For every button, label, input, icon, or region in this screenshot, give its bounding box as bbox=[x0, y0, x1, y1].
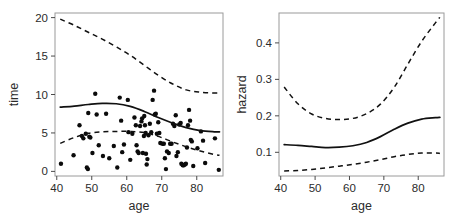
x-tick-label: 60 bbox=[120, 182, 133, 194]
scatter-point bbox=[164, 167, 168, 171]
scatter-point bbox=[190, 139, 194, 143]
scatter-point bbox=[126, 130, 130, 134]
scatter-point bbox=[145, 157, 149, 161]
scatter-point bbox=[134, 123, 138, 127]
scatter-point bbox=[143, 123, 147, 127]
x-tick-label: 70 bbox=[155, 182, 168, 194]
scatter-point bbox=[217, 168, 221, 172]
y-axis-title: hazard bbox=[235, 75, 249, 113]
scatter-point bbox=[136, 151, 140, 155]
scatter-point bbox=[128, 158, 132, 162]
scatter-point bbox=[162, 142, 166, 146]
scatter-point bbox=[213, 136, 217, 140]
scatter-point bbox=[148, 122, 152, 126]
scatter-point bbox=[203, 161, 207, 165]
scatter-point bbox=[86, 111, 90, 115]
scatter-point bbox=[138, 124, 142, 128]
scatter-point bbox=[144, 152, 148, 156]
hazard-line-plot: 40506070800.10.20.30.4agehazard bbox=[235, 0, 470, 217]
figure-panel-pair: 405060708005101520agetime 40506070800.10… bbox=[0, 0, 470, 217]
scatter-point bbox=[77, 123, 81, 127]
y-axis-title: time bbox=[7, 83, 21, 107]
curve-hazard-upper-band bbox=[284, 17, 440, 119]
x-axis-title: age bbox=[351, 199, 372, 213]
x-tick-label: 50 bbox=[85, 182, 98, 194]
curve-hazard-lower-band bbox=[284, 153, 440, 171]
scatter-point bbox=[201, 138, 205, 142]
scatter-point bbox=[101, 154, 105, 158]
scatter-point bbox=[163, 156, 167, 160]
y-tick-label: 0.4 bbox=[256, 37, 273, 49]
plot-frame bbox=[279, 13, 444, 176]
scatter-point bbox=[104, 112, 108, 116]
x-tick-label: 70 bbox=[377, 182, 390, 194]
scatter-point bbox=[90, 151, 94, 155]
scatter-point bbox=[86, 167, 90, 171]
scatter-point bbox=[188, 118, 192, 122]
scatter-point bbox=[142, 114, 146, 118]
scatter-point bbox=[176, 150, 180, 154]
x-tick-label: 40 bbox=[50, 182, 63, 194]
x-tick-label: 80 bbox=[412, 182, 425, 194]
panel-hazard-vs-age: 40506070800.10.20.30.4agehazard bbox=[235, 0, 470, 217]
panel-time-vs-age: 405060708005101520agetime bbox=[0, 0, 235, 217]
time-scatter-plot: 405060708005101520agetime bbox=[0, 0, 235, 217]
curve-upper-band bbox=[60, 19, 219, 93]
scatter-point bbox=[88, 135, 92, 139]
scatter-point bbox=[112, 144, 116, 148]
y-tick-label: 20 bbox=[35, 12, 48, 24]
scatter-point bbox=[119, 118, 123, 122]
scatter-point bbox=[59, 162, 63, 166]
scatter-point bbox=[132, 115, 136, 119]
y-tick-label: 15 bbox=[35, 50, 48, 62]
scatter-point bbox=[156, 120, 160, 124]
x-tick-label: 60 bbox=[343, 182, 356, 194]
scatter-point bbox=[169, 142, 173, 146]
scatter-point bbox=[167, 151, 171, 155]
y-tick-label: 0.2 bbox=[256, 110, 272, 122]
x-tick-label: 50 bbox=[309, 182, 322, 194]
scatter-point bbox=[118, 95, 122, 99]
scatter-point bbox=[93, 92, 97, 96]
scatter-point bbox=[81, 136, 85, 140]
scatter-point bbox=[120, 150, 124, 154]
x-tick-label: 80 bbox=[190, 182, 203, 194]
scatter-point bbox=[107, 156, 111, 160]
x-axis-title: age bbox=[129, 199, 150, 213]
scatter-point bbox=[187, 108, 191, 112]
scatter-point bbox=[126, 98, 130, 102]
scatter-point bbox=[97, 143, 101, 147]
curve-hazard-estimate bbox=[284, 117, 440, 147]
scatter-point bbox=[122, 142, 126, 146]
scatter-point bbox=[145, 162, 149, 166]
y-tick-label: 0.3 bbox=[256, 73, 272, 85]
x-tick-label: 40 bbox=[274, 182, 287, 194]
scatter-point bbox=[115, 165, 119, 169]
y-tick-label: 0.1 bbox=[256, 146, 272, 158]
scatter-point bbox=[195, 146, 199, 150]
y-tick-label: 10 bbox=[35, 89, 48, 101]
scatter-point bbox=[71, 153, 75, 157]
scatter-point bbox=[191, 164, 195, 168]
scatter-point bbox=[174, 154, 178, 158]
y-tick-label: 5 bbox=[42, 127, 48, 139]
scatter-point bbox=[152, 88, 156, 92]
scatter-point bbox=[157, 131, 161, 135]
scatter-point bbox=[184, 162, 188, 166]
scatter-point bbox=[174, 113, 178, 117]
y-tick-label: 0 bbox=[42, 165, 48, 177]
scatter-point bbox=[134, 143, 138, 147]
scatter-point bbox=[150, 98, 154, 102]
scatter-point bbox=[94, 112, 98, 116]
